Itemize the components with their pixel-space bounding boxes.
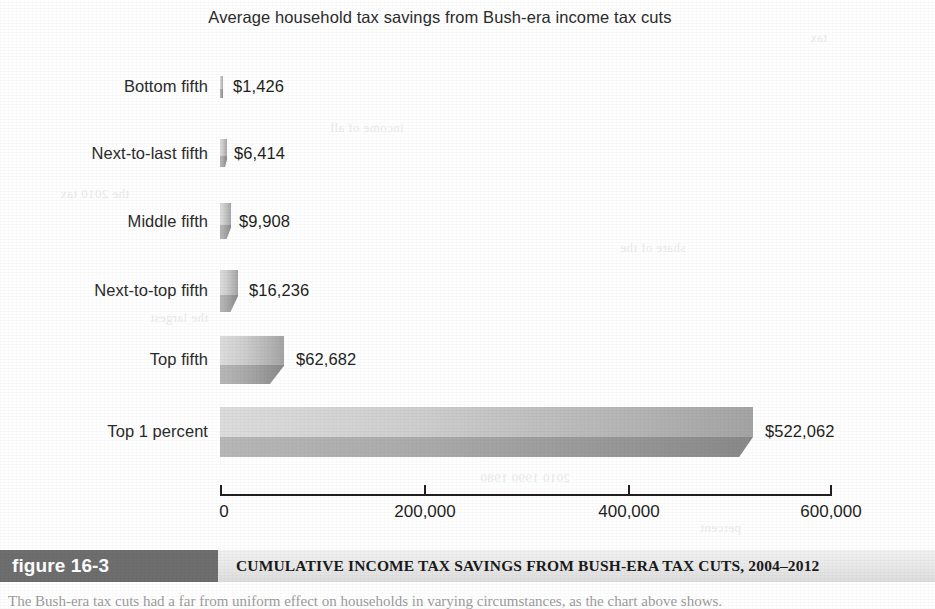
bar-bottom-fifth[interactable]: [220, 76, 223, 98]
figure-caption-text: CUMULATIVE INCOME TAX SAVINGS FROM BUSH-…: [218, 550, 819, 582]
bar-fill: [220, 203, 231, 239]
plot-area: Bottom fifth $1,426 Next-to-last fifth $…: [0, 55, 935, 475]
value-label-next-to-top-fifth: $16,236: [249, 281, 309, 300]
bar-top-fifth[interactable]: [220, 336, 284, 384]
bar-top-1-percent[interactable]: [220, 407, 753, 457]
category-label-next-to-last-fifth: Next-to-last fifth: [92, 144, 208, 163]
bar-fill: [220, 336, 284, 384]
bar-row: Bottom fifth $1,426: [0, 73, 935, 99]
bar-row: Top fifth $62,682: [0, 336, 935, 386]
value-label-top-1-percent: $522,062: [765, 422, 835, 441]
bar-fill: [220, 270, 238, 312]
axis-tick-200000: [424, 485, 426, 494]
axis-tick-label-200000: 200,000: [394, 502, 455, 522]
category-label-bottom-fifth: Bottom fifth: [124, 77, 208, 96]
axis-tick-600000: [830, 485, 832, 494]
category-label-top-1-percent: Top 1 percent: [107, 422, 208, 441]
figure-number-box: figure 16-3: [0, 550, 218, 582]
bar-chart-figure: Average household tax savings from Bush-…: [0, 0, 935, 535]
x-axis: 0 200,000 400,000 600,000: [0, 494, 935, 536]
body-text-line: The Bush-era tax cuts had a far from uni…: [8, 594, 927, 609]
axis-tick-label-400000: 400,000: [598, 502, 659, 522]
figure-number-label: figure 16-3: [12, 555, 109, 577]
bar-middle-fifth[interactable]: [220, 203, 231, 239]
category-label-top-fifth: Top fifth: [150, 350, 208, 369]
value-label-top-fifth: $62,682: [296, 350, 356, 369]
category-label-middle-fifth: Middle fifth: [128, 212, 208, 231]
axis-tick-0: [220, 485, 222, 494]
bar-row: Next-to-top fifth $16,236: [0, 270, 935, 314]
bar-fill: [220, 76, 223, 98]
body-text-sliver: The Bush-era tax cuts had a far from uni…: [8, 594, 927, 609]
axis-tick-400000: [628, 485, 630, 494]
bar-next-to-top-fifth[interactable]: [220, 270, 238, 312]
bar-row: Next-to-last fifth $6,414: [0, 139, 935, 169]
figure-caption-bar: figure 16-3 CUMULATIVE INCOME TAX SAVING…: [0, 550, 935, 582]
bar-next-to-last-fifth[interactable]: [220, 139, 227, 167]
bar-fill: [220, 407, 753, 457]
value-label-bottom-fifth: $1,426: [233, 77, 284, 96]
axis-line: [220, 494, 832, 496]
bar-row: Middle fifth $9,908: [0, 203, 935, 241]
bar-fill: [220, 139, 227, 167]
axis-tick-label-600000: 600,000: [800, 502, 861, 522]
category-label-next-to-top-fifth: Next-to-top fifth: [94, 281, 208, 300]
value-label-middle-fifth: $9,908: [239, 212, 290, 231]
chart-title: Average household tax savings from Bush-…: [0, 8, 880, 27]
value-label-next-to-last-fifth: $6,414: [234, 144, 285, 163]
axis-tick-label-0: 0: [219, 502, 228, 522]
bar-row: Top 1 percent $522,062: [0, 407, 935, 459]
